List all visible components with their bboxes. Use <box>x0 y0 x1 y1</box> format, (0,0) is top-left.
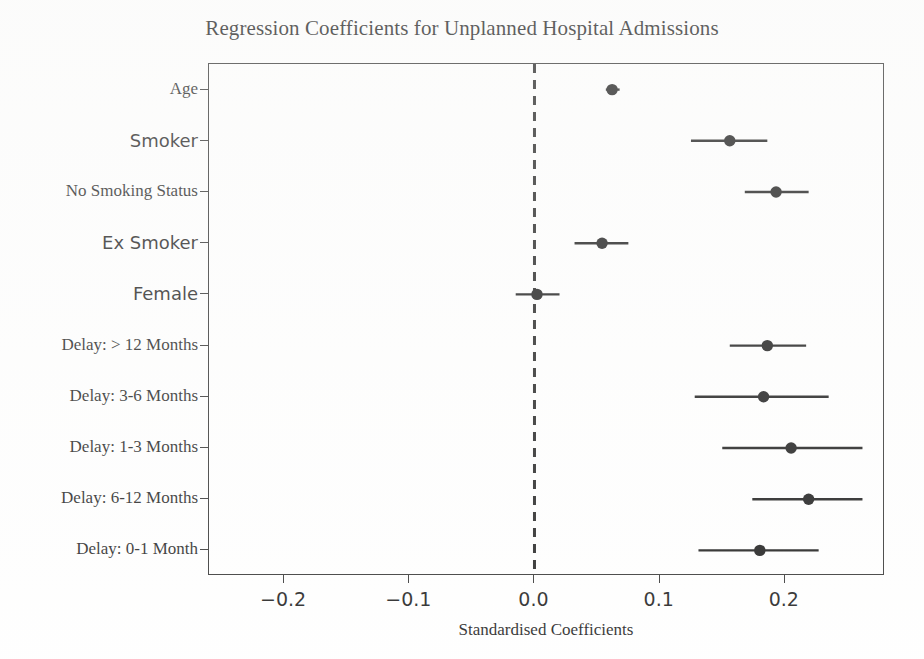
x-tick-mark <box>533 575 534 583</box>
x-axis-title: Standardised Coefficients <box>208 620 884 640</box>
x-tick-mark <box>283 575 284 583</box>
x-tick-label: 0.1 <box>644 588 674 610</box>
x-tick-label: 0.2 <box>769 588 799 610</box>
x-tick-mark <box>408 575 409 583</box>
x-tick-label: −0.1 <box>385 588 431 610</box>
x-tick-mark <box>659 575 660 583</box>
x-tick-mark <box>784 575 785 583</box>
x-tick-label: 0.0 <box>518 588 548 610</box>
regression-coefficient-plot: Regression Coefficients for Unplanned Ho… <box>0 0 924 659</box>
x-tick-label: −0.2 <box>260 588 306 610</box>
x-axis-ticks: −0.2−0.10.00.10.2 <box>0 0 924 659</box>
